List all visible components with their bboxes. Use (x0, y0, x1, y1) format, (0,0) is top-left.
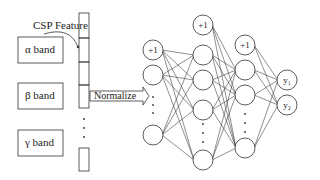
bias-label-layer1: +1 (143, 45, 163, 55)
connection-edge (212, 70, 236, 80)
bias-label-layer3: +1 (235, 40, 255, 50)
feature-cell (79, 85, 89, 108)
connection-edge (212, 95, 236, 160)
neuron-node-layer3 (235, 85, 255, 105)
csp-feature-label: CSP Feature (33, 19, 88, 31)
neuron-node-layer1 (143, 125, 163, 145)
output-label-y1: y₁ (277, 75, 297, 85)
neuron-node-layer2 (193, 100, 213, 120)
connection-edge (162, 55, 194, 75)
neuron-node-layer2 (193, 45, 213, 65)
feature-cell (79, 62, 89, 85)
neuron-node-layer3 (235, 138, 255, 158)
connection-edge (212, 55, 236, 70)
connection-edge (212, 25, 236, 148)
connection-edge (212, 25, 236, 70)
neuron-node-layer2 (193, 150, 213, 170)
output-label-y2: y₂ (277, 100, 297, 110)
connection-edge (212, 80, 236, 95)
neuron-node-layer2 (193, 70, 213, 90)
connection-edge (212, 70, 236, 160)
connection-edge (254, 80, 278, 95)
connection-edge (212, 95, 236, 110)
neuron-node-layer3 (235, 60, 255, 80)
connection-edge (212, 55, 236, 148)
beta-band-label: β band (25, 89, 55, 101)
normalize-label: Normalize (94, 90, 136, 101)
gamma-band-label: γ band (25, 136, 54, 148)
feature-cell (79, 38, 89, 62)
alpha-band-label: α band (25, 43, 55, 55)
connection-edge (254, 105, 278, 148)
connection-edge (254, 80, 278, 148)
neuron-node-layer1 (143, 65, 163, 85)
bias-label-layer2: +1 (193, 20, 213, 30)
feature-cell (79, 148, 89, 171)
